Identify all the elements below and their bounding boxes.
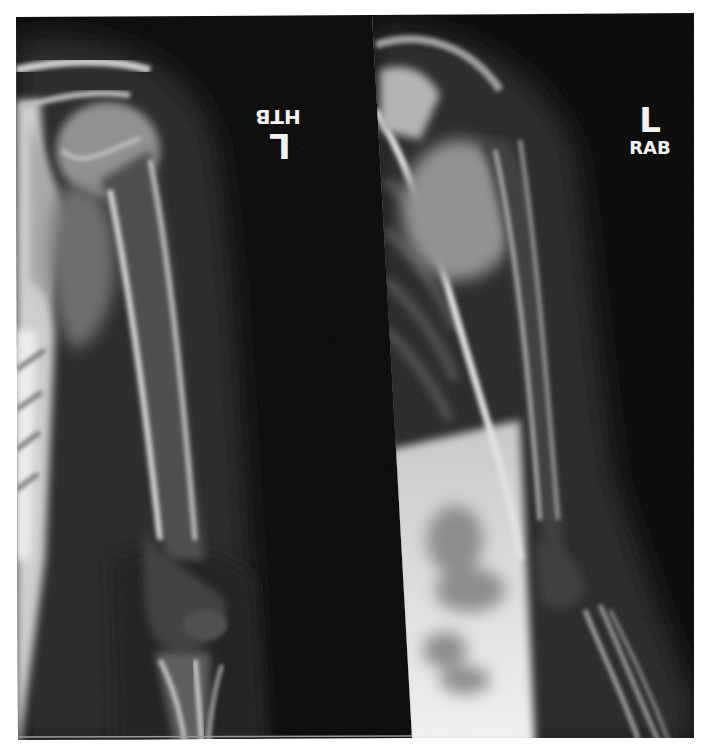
marker-letter: L (269, 126, 291, 166)
left-radiograph (0, 0, 420, 752)
marker-label: RAB (629, 137, 671, 158)
xray-figure: HTB L (0, 0, 709, 752)
marker-letter: L (639, 100, 661, 140)
marker-label: HTB (255, 105, 301, 129)
film-edge (18, 736, 412, 737)
